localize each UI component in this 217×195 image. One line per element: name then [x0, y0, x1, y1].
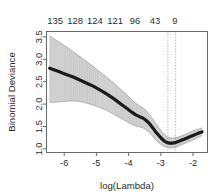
- x-tick-label: -3: [157, 158, 165, 168]
- error-band-upper-edge: [50, 36, 202, 138]
- chart-canvas: 1.01.52.02.53.03.5-6-5-4-3-2135128124121…: [0, 0, 217, 195]
- y-tick-label: 3.5: [34, 30, 44, 43]
- y-tick-label: 2.0: [34, 98, 44, 111]
- top-axis-label: 135: [47, 15, 63, 26]
- y-tick-label: 1.5: [34, 120, 44, 133]
- y-tick-label: 2.5: [34, 75, 44, 88]
- error-band: [50, 36, 202, 148]
- y-axis-title: Binomial Deviance: [6, 52, 17, 131]
- top-axis-label: 9: [172, 15, 177, 26]
- top-axis-label: 128: [67, 15, 83, 26]
- x-axis-title: log(Lambda): [100, 180, 154, 191]
- y-tick-label: 3.0: [34, 53, 44, 66]
- x-tick-label: -6: [60, 158, 68, 168]
- x-tick-label: -2: [189, 158, 197, 168]
- y-tick-label: 1.0: [34, 143, 44, 156]
- x-tick-label: -5: [92, 158, 100, 168]
- x-tick-label: -4: [125, 158, 133, 168]
- top-axis-label: 43: [150, 15, 160, 26]
- top-axis-label: 121: [107, 15, 123, 26]
- top-axis-label: 96: [130, 15, 140, 26]
- cv-glmnet-plot: 1.01.52.02.53.03.5-6-5-4-3-2135128124121…: [0, 0, 217, 195]
- top-axis-label: 124: [87, 15, 103, 26]
